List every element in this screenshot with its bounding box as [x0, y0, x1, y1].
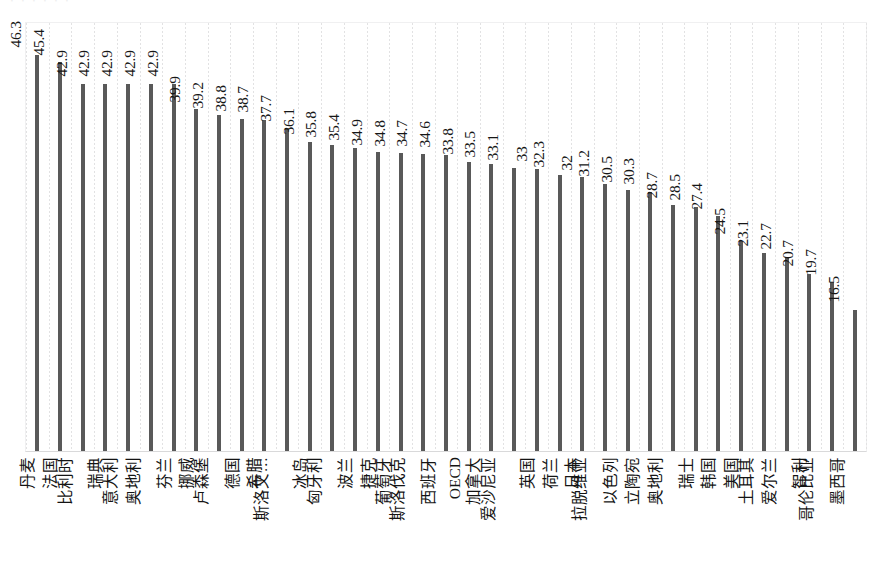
bar-value-label: 42.9	[54, 50, 70, 76]
category-label: 芬兰	[157, 457, 173, 489]
category-label: 爱沙尼亚	[481, 457, 497, 521]
category-label: OECD	[447, 457, 463, 499]
bar[interactable]	[421, 154, 425, 451]
bar-value-label: 28.5	[667, 174, 683, 200]
bar[interactable]	[603, 184, 607, 451]
bar-slot: 37.7	[276, 23, 299, 451]
bar-value-label: 33.5	[463, 131, 479, 157]
bar[interactable]	[81, 84, 85, 451]
bar[interactable]	[217, 115, 221, 451]
bar-value-label: 33.1	[485, 134, 501, 160]
bar-value-label: 33	[514, 146, 530, 161]
bar-value-label: 34.7	[395, 121, 411, 147]
bar[interactable]	[126, 84, 130, 451]
bar-value-label: 33.8	[440, 128, 456, 154]
category-label: 西班牙	[421, 457, 437, 505]
bar[interactable]	[830, 282, 834, 451]
bar[interactable]	[194, 109, 198, 451]
bar[interactable]	[58, 62, 62, 451]
category-label: 比利时	[58, 457, 74, 505]
bar[interactable]	[308, 142, 312, 451]
bar-slot: 42.9	[117, 23, 140, 451]
bar-value-label: 16.5	[826, 276, 842, 302]
bar-value-label: 23.1	[735, 220, 751, 246]
chart-container: ‧ ‧ ‧ ‧ ‧ ‧ 46.345.442.942.942.942.942.9…	[0, 0, 879, 573]
bar-series: 46.345.442.942.942.942.942.939.939.238.8…	[26, 23, 866, 451]
bar[interactable]	[580, 177, 584, 451]
bar-value-label: 38.7	[236, 86, 252, 112]
bar-slot: 42.9	[71, 23, 94, 451]
bar[interactable]	[671, 205, 675, 451]
bar-value-label: 42.9	[77, 50, 93, 76]
bar[interactable]	[853, 310, 857, 451]
category-label: 瑞士	[679, 457, 695, 489]
bar[interactable]	[716, 216, 720, 451]
bar-value-label: 32	[559, 155, 575, 170]
category-label: 意大利	[103, 457, 119, 505]
bar[interactable]	[172, 84, 176, 451]
category-label: 爱尔兰	[762, 457, 778, 505]
bar-value-label: 37.7	[258, 95, 274, 121]
category-label: 土耳其	[739, 457, 755, 505]
bar-slot: 30.3	[639, 23, 662, 451]
bar[interactable]	[285, 128, 289, 451]
bar-value-label: 34.8	[372, 120, 388, 146]
bar[interactable]	[35, 55, 39, 451]
bar-slot: 33	[525, 23, 548, 451]
bar[interactable]	[535, 169, 539, 451]
bar[interactable]	[399, 153, 403, 451]
category-label: 匈牙利	[307, 457, 323, 505]
bar[interactable]	[376, 152, 380, 451]
bar-slot: 30.5	[616, 23, 639, 451]
bar[interactable]	[240, 119, 244, 451]
gridline	[866, 23, 867, 451]
category-label: 拉脱维亚	[572, 457, 588, 521]
bar[interactable]	[353, 148, 357, 451]
bar-slot: 32	[571, 23, 594, 451]
category-label: 荷兰	[543, 457, 559, 489]
bar[interactable]	[762, 253, 766, 451]
bar[interactable]	[512, 168, 516, 451]
bar-slot: 32.3	[548, 23, 571, 451]
bar-value-label: 30.5	[599, 157, 615, 183]
category-label: 斯洛文…	[254, 457, 270, 521]
bar-value-label: 20.7	[781, 240, 797, 266]
category-label: 奥地利	[648, 457, 664, 505]
clipped-title-remnant: ‧ ‧ ‧ ‧ ‧ ‧	[10, 0, 430, 8]
bar[interactable]	[694, 207, 698, 451]
bar-value-label: 39.9	[168, 76, 184, 102]
bar-slot: 27.4	[707, 23, 730, 451]
bar-value-label: 35.8	[304, 111, 320, 137]
bar-value-label: 39.2	[190, 82, 206, 108]
bar-value-label: 34.6	[417, 122, 433, 148]
bar[interactable]	[489, 164, 493, 451]
bar-value-label: 45.4	[31, 29, 47, 55]
plot-area: 46.345.442.942.942.942.942.939.939.238.8…	[25, 22, 867, 452]
bar[interactable]	[626, 190, 630, 451]
bar[interactable]	[558, 175, 562, 451]
bar-slot: 36.1	[298, 23, 321, 451]
bar-slot: 46.3	[26, 23, 49, 451]
bar-slot: 22.7	[775, 23, 798, 451]
bar[interactable]	[149, 84, 153, 451]
bar[interactable]	[807, 274, 811, 451]
bar-slot: 31.2	[594, 23, 617, 451]
bar[interactable]	[739, 241, 743, 451]
category-label: 韩国	[701, 457, 717, 489]
bar[interactable]	[785, 257, 789, 451]
bar-slot: 45.4	[49, 23, 72, 451]
bar[interactable]	[262, 120, 266, 451]
category-label: 英国	[520, 457, 536, 489]
bar[interactable]	[648, 192, 652, 451]
bar-slot: 16.5	[843, 23, 866, 451]
category-label: 丹麦	[20, 457, 36, 489]
category-label: 哥伦比亚	[799, 457, 815, 521]
bar-value-label: 42.9	[122, 50, 138, 76]
bar-value-label: 35.4	[327, 115, 343, 141]
bar-value-label: 22.7	[758, 223, 774, 249]
bar-value-label: 38.8	[213, 86, 229, 112]
bar[interactable]	[444, 155, 448, 451]
bar[interactable]	[330, 145, 334, 451]
bar[interactable]	[103, 84, 107, 451]
bar[interactable]	[467, 162, 471, 451]
